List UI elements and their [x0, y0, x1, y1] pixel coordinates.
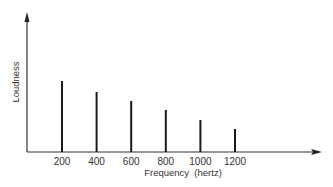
x-tick-labels: 20040060080010001200 — [54, 156, 247, 167]
x-tick-1200: 1200 — [224, 156, 247, 167]
line-spectrum-chart: 20040060080010001200 Frequency (hertz) L… — [0, 0, 333, 187]
x-tick-400: 400 — [88, 156, 105, 167]
x-tick-800: 800 — [157, 156, 174, 167]
x-tick-1000: 1000 — [189, 156, 212, 167]
x-tick-200: 200 — [54, 156, 71, 167]
bars-group — [62, 81, 235, 152]
y-axis-label: Loudness — [10, 61, 21, 102]
x-tick-600: 600 — [123, 156, 140, 167]
x-axis-label: Frequency (hertz) — [144, 167, 222, 178]
y-axis-arrow-icon — [25, 12, 30, 22]
